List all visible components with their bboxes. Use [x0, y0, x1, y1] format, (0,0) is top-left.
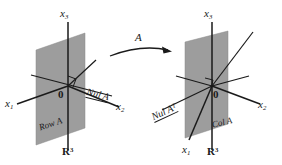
left-axis-label-x2: x2 — [116, 101, 124, 114]
left-origin-label: 0 — [58, 89, 64, 100]
figure-canvas: x3 x1 x2 0 Nul A Row A R3 A x3 x1 x2 0 N… — [0, 0, 282, 165]
left-axis-label-x1: x1 — [5, 98, 13, 111]
left-axis-label-x3: x3 — [60, 8, 68, 21]
right-diagram-graphics — [162, 22, 260, 150]
transformation-arrow-graphics — [110, 47, 172, 57]
diagram-vector-graphics — [0, 0, 282, 165]
right-axis-label-x3: x3 — [204, 8, 212, 21]
right-space-label-r3: R3 — [207, 146, 218, 157]
right-axis-label-x2: x2 — [258, 99, 266, 112]
left-space-label-r3: R3 — [62, 146, 73, 157]
right-axis-label-x1: x1 — [182, 144, 190, 157]
transformation-arrow-curve — [110, 48, 168, 56]
right-origin-label: 0 — [213, 89, 219, 100]
left-diagram-graphics — [17, 22, 119, 150]
transformation-arrow-head — [162, 47, 172, 54]
transformation-label-a: A — [135, 32, 142, 43]
